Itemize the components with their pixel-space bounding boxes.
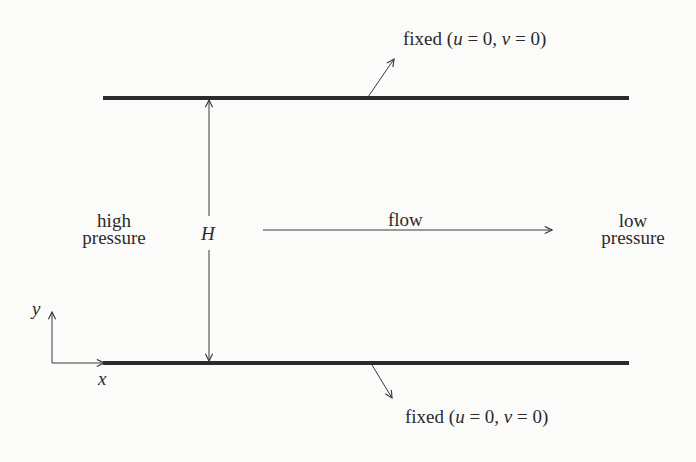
high-pressure-label: high pressure: [64, 212, 164, 246]
high-pressure-line2: pressure: [64, 229, 164, 246]
bottom-leader-arrow: [372, 365, 392, 398]
bottom-eq1-text: = 0,: [465, 406, 504, 427]
low-pressure-label: low pressure: [583, 212, 683, 246]
bottom-u-symbol: u: [455, 406, 465, 427]
top-u-symbol: u: [453, 28, 463, 49]
flow-label: flow: [388, 211, 423, 228]
top-boundary-label: fixed (u = 0, v = 0): [403, 30, 546, 47]
top-fixed-text: fixed (: [403, 28, 453, 49]
bottom-boundary-label: fixed (u = 0, v = 0): [405, 408, 548, 425]
x-axis-label: x: [98, 370, 106, 387]
y-axis-label: y: [32, 300, 40, 317]
top-eq2-text: = 0): [510, 28, 546, 49]
top-leader-arrow: [368, 59, 394, 97]
bottom-fixed-text: fixed (: [405, 406, 455, 427]
top-eq1-text: = 0,: [463, 28, 502, 49]
low-pressure-line2: pressure: [583, 229, 683, 246]
height-label: H: [201, 225, 215, 242]
bottom-eq2-text: = 0): [512, 406, 548, 427]
